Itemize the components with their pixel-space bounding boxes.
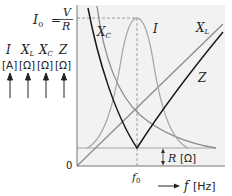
i0-symbol: I0 xyxy=(32,12,43,29)
legend-z-unit: [Ω] xyxy=(55,59,71,71)
equals-sign: = xyxy=(51,13,61,27)
z-label: Z xyxy=(197,71,207,85)
f-axis-unit: [Hz] xyxy=(193,180,216,193)
legend-xc-unit: [Ω] xyxy=(37,59,53,71)
legend-i-unit: [A] xyxy=(2,59,17,71)
legend-z-symbol: Z xyxy=(58,43,68,57)
f0-tick-label: f0 xyxy=(131,171,141,185)
i-label: I xyxy=(152,22,158,36)
legend-xl-unit: [Ω] xyxy=(19,59,35,71)
r-label: R xyxy=(167,152,176,165)
origin-label: 0 xyxy=(66,160,72,171)
i0-numerator: V xyxy=(63,6,72,19)
legend-xl-symbol: XL xyxy=(20,43,35,58)
legend-xc-symbol: XC xyxy=(38,43,54,58)
f-axis-symbol: f xyxy=(183,179,191,193)
resonance-diagram: I0 = V R I XL XC Z [A] [Ω] [Ω] [Ω] XC I … xyxy=(0,0,232,196)
i0-denominator: R xyxy=(61,20,70,33)
arrow-right-icon xyxy=(174,184,180,189)
legend-arrows xyxy=(8,73,67,98)
r-unit: [Ω] xyxy=(180,152,196,164)
legend-i-symbol: I xyxy=(5,43,11,57)
